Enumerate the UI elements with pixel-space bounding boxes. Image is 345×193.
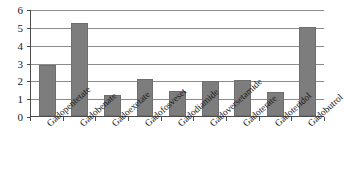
x-label-slot: Gadobutrol — [292, 118, 325, 193]
x-label-slot: Gadoterate — [226, 118, 259, 193]
x-label-slot: Gadoversetamide — [194, 118, 227, 193]
y-axis-tick-label: 2 — [18, 76, 24, 87]
y-axis-tick-labels: 0123456 — [0, 0, 26, 125]
x-label-slot: Gadopentetate — [31, 118, 64, 193]
x-label-slot: Gadobenate — [64, 118, 97, 193]
y-axis-tick-label: 4 — [18, 40, 24, 51]
y-axis-tick-label: 0 — [18, 112, 24, 123]
x-axis-category-labels: GadopentetateGadobenateGadoexetateGadofo… — [31, 118, 324, 193]
x-label-slot: Gadofosveset — [129, 118, 162, 193]
y-axis-tick-label: 6 — [18, 5, 24, 16]
y-axis-tick-label: 5 — [18, 22, 24, 33]
y-axis-tick-label: 3 — [18, 58, 24, 69]
bar — [39, 65, 56, 116]
x-label-slot: Gadoexetate — [96, 118, 129, 193]
x-label-slot: Gadoteridol — [259, 118, 292, 193]
y-axis-tick-label: 1 — [18, 94, 24, 105]
bar-slot — [31, 10, 64, 116]
x-label-slot: Gadodiamide — [161, 118, 194, 193]
